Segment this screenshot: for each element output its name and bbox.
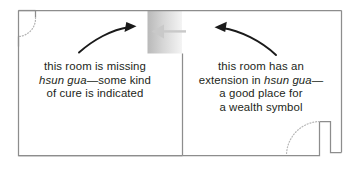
note-text: —some kind xyxy=(87,74,151,86)
note-text: of cure is indicated xyxy=(47,87,144,99)
note-text: this room is missing xyxy=(44,60,146,72)
note-text: a good place for xyxy=(219,87,302,99)
right-room-note: this room has anextension in hsun gua—a … xyxy=(190,60,332,114)
door-swing-bottom-right xyxy=(287,122,320,156)
note-line: this room is missing xyxy=(23,60,167,74)
left-room-note: this room is missinghsun gua—some kindof… xyxy=(23,60,167,101)
note-line: extension in hsun gua— xyxy=(190,74,332,88)
door-swing-top-left xyxy=(19,11,36,47)
note-text: — xyxy=(312,74,324,86)
note-text: hsun gua xyxy=(39,74,87,86)
note-line: a wealth symbol xyxy=(190,101,332,115)
note-line: this room has an xyxy=(190,60,332,74)
note-text: this room has an xyxy=(218,60,304,72)
left-curved-arrow xyxy=(79,22,137,53)
note-text: a wealth symbol xyxy=(219,101,302,113)
note-line: of cure is indicated xyxy=(23,87,167,101)
note-text: extension in xyxy=(199,74,264,86)
note-line: hsun gua—some kind xyxy=(23,74,167,88)
note-line: a good place for xyxy=(190,87,332,101)
right-curved-arrow xyxy=(215,22,277,55)
note-text: hsun gua xyxy=(264,74,312,86)
